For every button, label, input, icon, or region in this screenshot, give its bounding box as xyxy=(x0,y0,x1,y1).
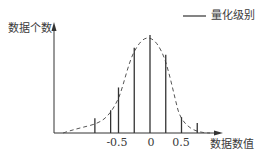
x-axis-arrow-icon xyxy=(214,131,223,136)
x-tick-neg-0.5: -0.5 xyxy=(106,137,127,148)
y-axis-label: 数据个数 xyxy=(8,23,52,34)
x-tick-0.5: 0.5 xyxy=(172,137,190,148)
x-axis-label: 数据数值 xyxy=(210,139,254,150)
x-tick-0: 0 xyxy=(148,137,155,148)
legend-label: 量化级别 xyxy=(211,10,255,21)
distribution-curve xyxy=(63,38,210,133)
quantization-stems xyxy=(95,35,197,133)
y-axis-arrow-icon xyxy=(52,22,57,31)
